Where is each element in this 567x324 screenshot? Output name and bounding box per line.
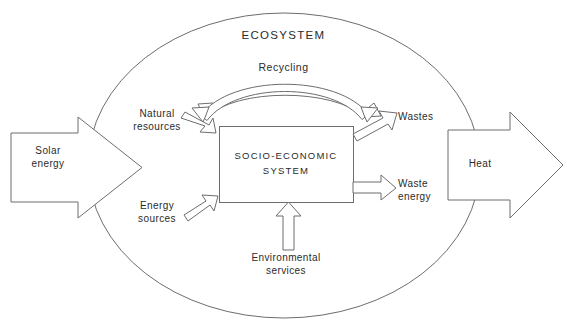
solar-energy-label: Solarenergy <box>15 144 81 170</box>
diagram-canvas: ECOSYSTEM Recycling Solarenergy Heat Nat… <box>0 0 567 324</box>
ecosystem-title: ECOSYSTEM <box>0 29 567 42</box>
wastes-label: Wastes <box>398 110 458 123</box>
socio-economic-line-2: SYSTEM <box>263 165 309 176</box>
waste-energy-label: Wasteenergy <box>398 177 458 203</box>
recycling-label: Recycling <box>0 61 567 74</box>
heat-label: Heat <box>452 157 508 170</box>
environmental-services-label: Environmentalservices <box>228 251 344 277</box>
energy-sources-label: Energysources <box>124 199 190 225</box>
waste-energy-arrow <box>353 175 396 200</box>
natural-resources-label: Naturalresources <box>124 107 190 133</box>
environmental-services-arrow <box>276 202 301 250</box>
socio-economic-line-1: SOCIO-ECONOMIC <box>235 150 338 161</box>
recycling-arc-band <box>201 84 369 120</box>
socio-economic-system-label: SOCIO-ECONOMICSYSTEM <box>219 148 353 178</box>
